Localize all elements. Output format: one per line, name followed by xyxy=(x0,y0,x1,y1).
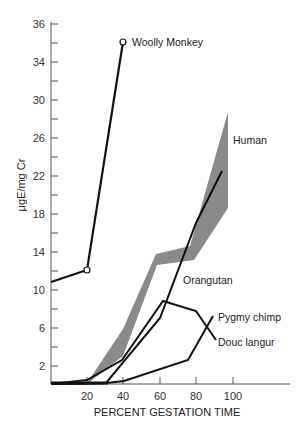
y-tick-label: 22 xyxy=(33,170,45,182)
x-tick-label: 60 xyxy=(154,390,166,402)
y-tick-label: 10 xyxy=(33,284,45,296)
y-tick-label: 30 xyxy=(33,94,45,106)
y-axis: 36 34 30 26 22 18 14 10 6 2 μgE/mg Cr xyxy=(15,18,58,384)
label-human: Human xyxy=(233,134,267,146)
label-pygmy-chimp: Pygmy chimp xyxy=(218,311,281,323)
y-tick-label: 6 xyxy=(39,322,45,334)
y-tick-label: 2 xyxy=(39,360,45,372)
y-tick-label: 18 xyxy=(33,208,45,220)
y-axis-title: μgE/mg Cr xyxy=(15,158,27,211)
y-tick-label: 26 xyxy=(33,132,45,144)
label-orangutan: Orangutan xyxy=(183,274,233,286)
woolly-monkey-line xyxy=(51,42,123,282)
woolly-monkey-marker xyxy=(120,39,126,45)
y-tick-label: 34 xyxy=(33,56,45,68)
x-tick-label: 100 xyxy=(224,390,242,402)
label-douc-langur: Douc langur xyxy=(218,336,275,348)
y-tick-label: 36 xyxy=(33,18,45,30)
woolly-monkey-marker xyxy=(84,267,90,273)
x-tick-label: 80 xyxy=(190,390,202,402)
x-tick-label: 40 xyxy=(117,390,129,402)
human-band xyxy=(69,112,228,384)
x-axis-title: PERCENT GESTATION TIME xyxy=(94,406,240,418)
label-woolly-monkey: Woolly Monkey xyxy=(132,36,204,48)
chart: 36 34 30 26 22 18 14 10 6 2 μgE/mg Cr 20… xyxy=(0,0,305,434)
y-tick-label: 14 xyxy=(33,246,45,258)
x-tick-label: 20 xyxy=(81,390,93,402)
